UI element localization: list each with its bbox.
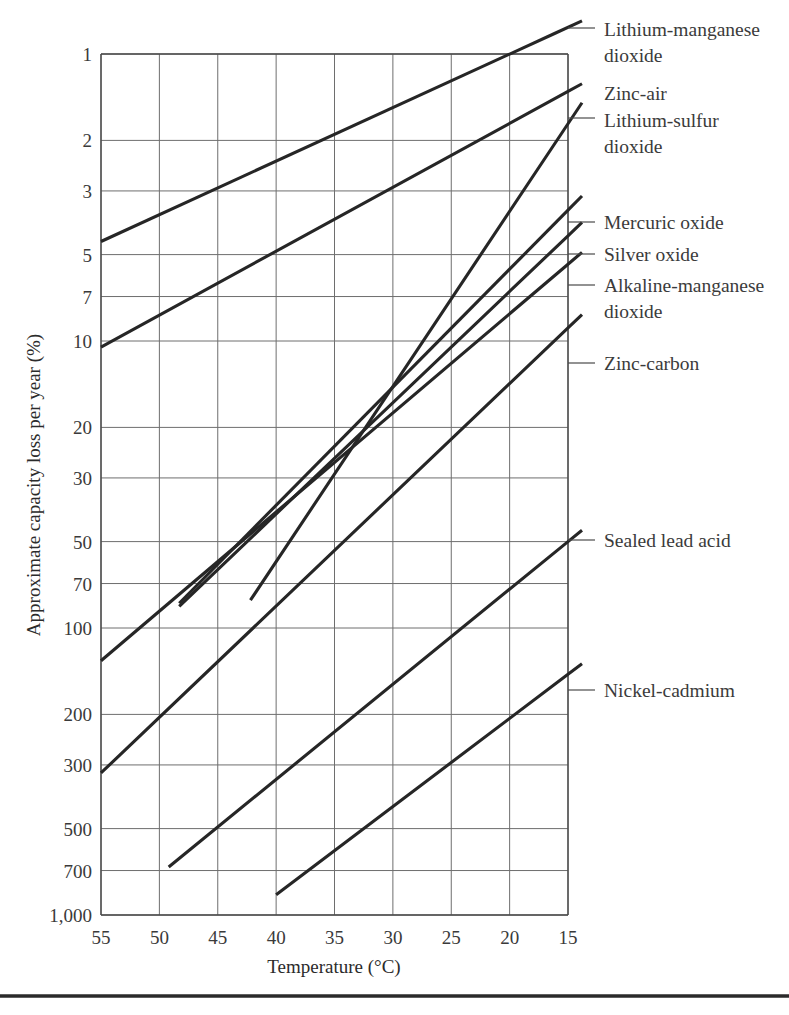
x-tick-label-45: 45: [208, 927, 227, 948]
series-label-line: Zinc-carbon: [604, 353, 700, 374]
series-label-silver-oxide: Silver oxide: [604, 244, 699, 265]
y-tick-label-5: 5: [83, 245, 93, 266]
series-label-line: Sealed lead acid: [604, 530, 731, 551]
x-tick-label-50: 50: [150, 927, 169, 948]
capacity-loss-vs-temperature-chart: 1235710203050701002003005007001,000 5550…: [0, 0, 789, 1015]
y-tick-label-200: 200: [64, 704, 93, 725]
y-tick-label-20: 20: [73, 417, 92, 438]
figure-background: [0, 0, 789, 1015]
series-label-line: Nickel-cadmium: [604, 680, 735, 701]
y-tick-label-1: 1: [83, 44, 93, 65]
series-label-nickel-cadmium: Nickel-cadmium: [604, 680, 735, 701]
series-label-line: Alkaline-manganese: [604, 275, 764, 296]
y-tick-label-1,000: 1,000: [49, 905, 92, 926]
x-tick-label-20: 20: [500, 927, 519, 948]
x-tick-label-55: 55: [92, 927, 111, 948]
series-label-mercuric-oxide: Mercuric oxide: [604, 212, 724, 233]
x-axis-tick-labels: 555045403530252015: [92, 927, 578, 948]
x-tick-label-35: 35: [325, 927, 344, 948]
x-tick-label-25: 25: [442, 927, 461, 948]
y-tick-label-2: 2: [83, 130, 93, 151]
y-tick-label-100: 100: [64, 618, 93, 639]
y-tick-label-700: 700: [64, 861, 93, 882]
series-label-zinc-air: Zinc-air: [604, 83, 667, 104]
series-label-line: Lithium-manganese: [604, 19, 760, 40]
y-tick-label-500: 500: [64, 819, 93, 840]
y-tick-label-300: 300: [64, 755, 93, 776]
x-tick-label-15: 15: [559, 927, 578, 948]
figure-container: 1235710203050701002003005007001,000 5550…: [0, 0, 789, 1015]
series-label-sealed-lead-acid: Sealed lead acid: [604, 530, 731, 551]
series-label-zinc-carbon: Zinc-carbon: [604, 353, 700, 374]
y-tick-label-30: 30: [73, 468, 92, 489]
series-label-line: dioxide: [604, 301, 663, 322]
y-tick-label-50: 50: [73, 532, 92, 553]
series-label-line: Zinc-air: [604, 83, 667, 104]
y-tick-label-3: 3: [83, 181, 93, 202]
series-label-line: Mercuric oxide: [604, 212, 724, 233]
x-tick-label-40: 40: [267, 927, 286, 948]
series-label-line: dioxide: [604, 45, 663, 66]
series-label-line: dioxide: [604, 136, 663, 157]
series-label-line: Lithium-sulfur: [604, 110, 719, 131]
x-tick-label-30: 30: [383, 927, 402, 948]
y-tick-label-7: 7: [83, 287, 93, 308]
series-label-line: Silver oxide: [604, 244, 699, 265]
x-axis-title: Temperature (°C): [267, 956, 400, 978]
y-tick-label-10: 10: [73, 331, 92, 352]
y-axis-title: Approximate capacity loss per year (%): [23, 334, 45, 636]
y-tick-label-70: 70: [73, 574, 92, 595]
